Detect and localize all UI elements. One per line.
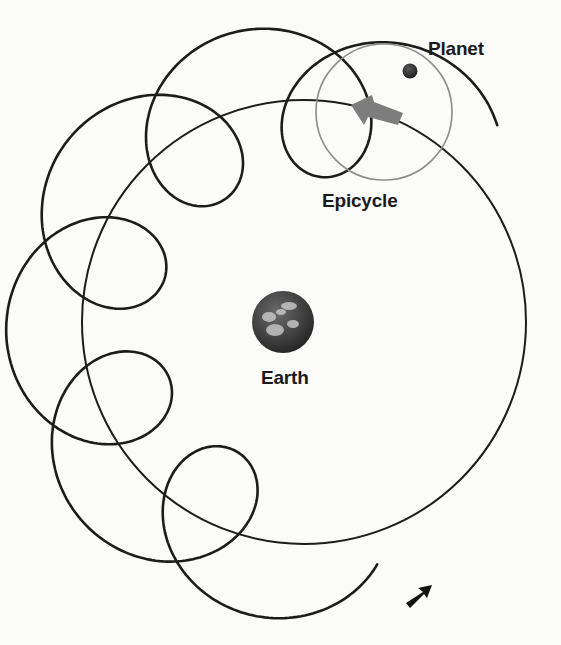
- epicycle-diagram: [0, 0, 561, 645]
- planet-label: Planet: [428, 38, 484, 60]
- path-end-arrow-icon: [406, 585, 432, 608]
- earth-label: Earth: [261, 367, 309, 389]
- planet-dot: [403, 64, 418, 79]
- epicycle-label: Epicycle: [322, 190, 398, 212]
- direction-arrow-icon: [351, 95, 403, 125]
- looped-planet-path: [6, 29, 497, 619]
- earth-globe-icon: [252, 291, 314, 353]
